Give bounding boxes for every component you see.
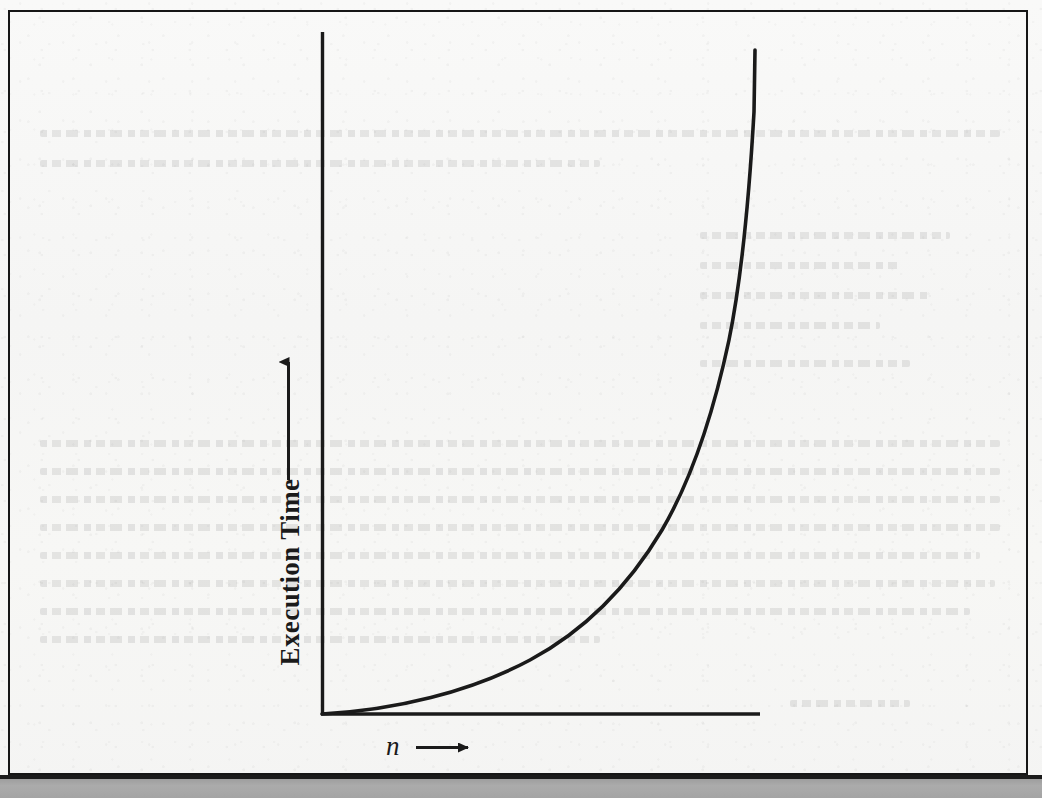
- exponential-curve: [322, 50, 755, 714]
- bottom-gray-band: [0, 779, 1042, 798]
- x-axis-label: n: [386, 731, 400, 762]
- scanned-figure-page: Execution Time n: [0, 0, 1042, 798]
- execution-time-figure: Execution Time n: [0, 0, 1042, 798]
- plot-canvas: [0, 0, 1042, 798]
- y-axis-label: Execution Time: [275, 479, 306, 666]
